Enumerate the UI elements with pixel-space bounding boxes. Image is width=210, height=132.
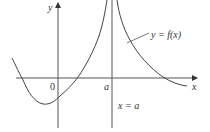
asymptote-tick-label: a: [104, 81, 109, 92]
asymptote-equation-label: x = a: [117, 100, 139, 111]
curve-label-leader: [127, 33, 149, 43]
y-axis-label: y: [47, 2, 53, 13]
curve-left-branch: [12, 0, 107, 104]
x-axis-label: x: [191, 81, 197, 92]
function-graph: y x 0 a x = a y = f(x): [0, 0, 210, 132]
curve-label: y = f(x): [150, 29, 182, 41]
origin-label: 0: [50, 81, 55, 92]
